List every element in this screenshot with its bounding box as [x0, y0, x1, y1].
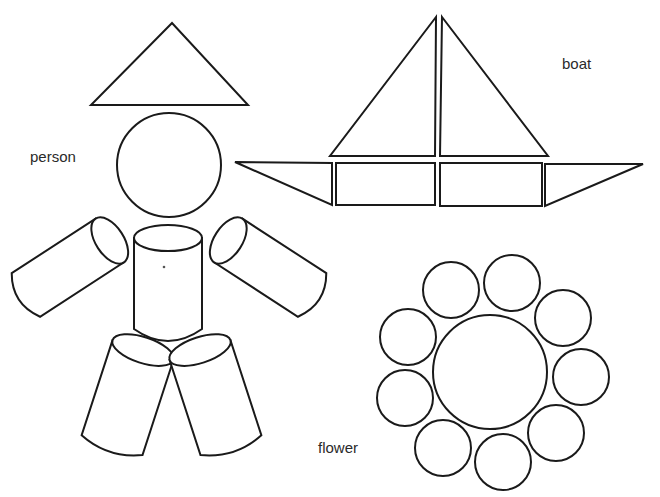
person-right-leg-cylinder [166, 328, 264, 462]
flower-petal-circle [377, 370, 433, 426]
flower-petal-circle [475, 434, 531, 490]
shapes-drawing [0, 0, 660, 497]
boat-left-sail-triangle [330, 17, 436, 156]
person-left-leg-cylinder [79, 328, 177, 462]
boat-hull-right-triangle [545, 164, 643, 206]
flower-petal-circle [528, 405, 584, 461]
flower-petal-circle [415, 420, 471, 476]
boat-hull-right-rectangle [440, 163, 542, 206]
person-label: person [30, 149, 76, 164]
boat-hull-left-rectangle [336, 163, 435, 205]
worksheet-canvas: person boat flower [0, 0, 660, 497]
flower-center-circle [433, 315, 547, 429]
flower-petal-circle [423, 262, 479, 318]
person-figure [5, 23, 334, 462]
flower-petal-circle [380, 309, 436, 365]
flower-petal-circle [535, 290, 591, 346]
flower-petal-circle [484, 255, 540, 311]
boat-hull-left-triangle [235, 162, 332, 205]
person-head-circle [117, 113, 221, 217]
flower-label: flower [318, 440, 358, 455]
person-hat-triangle [91, 23, 248, 105]
flower-petal-circle [553, 349, 609, 405]
boat-label: boat [562, 56, 591, 71]
boat-right-sail-triangle [440, 17, 548, 156]
person-left-arm-cylinder [5, 211, 136, 321]
person-torso-cylinder [134, 225, 202, 341]
flower-figure [377, 255, 609, 490]
boat-figure [235, 17, 643, 206]
person-right-arm-cylinder [202, 211, 333, 321]
